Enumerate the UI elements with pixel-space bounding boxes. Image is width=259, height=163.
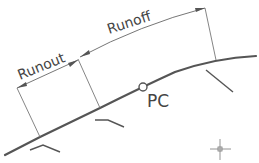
runout-dimension: Runout: [15, 49, 78, 88]
pc-point-marker: [139, 83, 147, 91]
runoff-end-extension-line: [205, 8, 216, 60]
runout-end-extension-line: [78, 59, 100, 108]
runoff-label: Runoff: [105, 8, 153, 37]
arrow-icon: [17, 82, 27, 88]
edge-tick-mark: [30, 145, 60, 152]
pc-label: PC: [147, 91, 169, 111]
runout-start-extension-line: [17, 88, 40, 137]
edge-tick-mark: [95, 120, 124, 127]
arrow-icon: [80, 50, 90, 57]
edge-tick-mark: [206, 70, 233, 92]
diagram-canvas: Runout Runoff PC: [0, 0, 259, 163]
crosshair-icon: [210, 139, 231, 160]
runoff-dimension: Runoff: [80, 8, 205, 57]
arrow-icon: [195, 8, 205, 12]
runout-label: Runout: [15, 49, 68, 83]
arrow-icon: [68, 60, 78, 67]
